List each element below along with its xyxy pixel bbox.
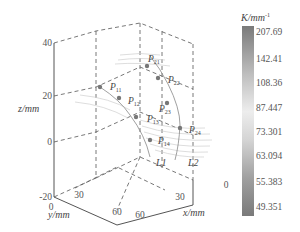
svg-text:P23: P23 [158, 104, 171, 115]
svg-text:P21: P21 [147, 54, 160, 65]
point-p21 [145, 64, 149, 68]
svg-text:P12: P12 [127, 96, 140, 107]
z-ticks: 40 20 0 -20 [39, 38, 52, 202]
label-l2: L2 [187, 157, 199, 168]
svg-text:108.36: 108.36 [256, 78, 282, 88]
svg-text:142.41: 142.41 [256, 54, 282, 64]
colorbar [242, 26, 254, 216]
point-p13 [134, 115, 138, 119]
svg-text:73.301: 73.301 [256, 127, 282, 137]
svg-text:20: 20 [43, 91, 53, 101]
x-axis-label: x/mm [182, 207, 205, 218]
svg-text:P11: P11 [109, 82, 122, 93]
point-labels: P11 P12 P13 P14 P21 P22 P23 P24 [109, 54, 201, 147]
svg-text:P22: P22 [167, 75, 180, 86]
colorbar-label: K/mm-1 [240, 12, 270, 23]
svg-text:0: 0 [47, 137, 52, 147]
point-p11 [98, 85, 102, 89]
chart-canvas: P11 P12 P13 P14 P21 P22 P23 P24 L1 L2 40… [0, 0, 300, 232]
point-p24 [178, 126, 182, 130]
label-l1: L1 [155, 157, 167, 168]
point-p12 [117, 96, 121, 100]
point-p22 [156, 76, 160, 80]
svg-text:55.383: 55.383 [256, 177, 282, 187]
point-p14 [148, 138, 152, 142]
z-axis-label: z/mm [17, 103, 39, 114]
svg-text:P13: P13 [146, 114, 159, 125]
svg-text:49.351: 49.351 [256, 202, 282, 212]
svg-text:63.094: 63.094 [256, 151, 282, 161]
svg-text:30: 30 [74, 190, 84, 200]
svg-text:P24: P24 [188, 125, 201, 136]
grid-lines [54, 23, 193, 210]
svg-text:207.69: 207.69 [256, 27, 282, 37]
colorbar-ticks: 207.69 142.41 108.36 87.447 73.301 63.09… [256, 27, 282, 212]
y-axis-label: y/mm [47, 209, 70, 220]
svg-text:0: 0 [224, 180, 229, 190]
surface-lines [75, 54, 212, 158]
svg-text:60: 60 [112, 207, 122, 217]
point-p23 [165, 101, 169, 105]
svg-text:87.447: 87.447 [256, 103, 282, 113]
svg-text:30: 30 [175, 192, 185, 202]
svg-text:-20: -20 [39, 192, 52, 202]
x-ticks: 60 30 0 [135, 180, 228, 220]
svg-text:60: 60 [135, 210, 145, 220]
svg-text:40: 40 [43, 38, 53, 48]
